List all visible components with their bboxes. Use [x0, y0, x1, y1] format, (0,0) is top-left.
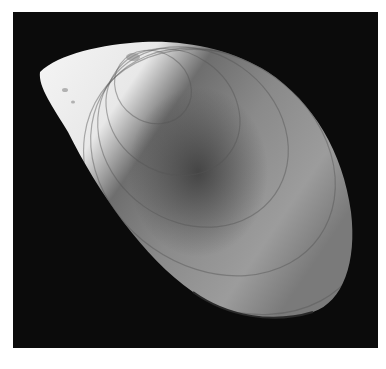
shell-body — [32, 12, 378, 348]
mussel-shell-illustration — [13, 12, 378, 348]
shell-photograph — [13, 12, 378, 348]
